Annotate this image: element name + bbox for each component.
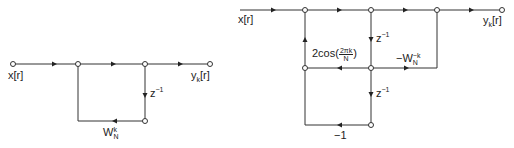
arrow-right-icon <box>469 8 474 13</box>
feedforward-gain-label: −W−kN <box>396 52 420 66</box>
arrow-right-icon <box>337 8 342 13</box>
cos-prefix: 2cos <box>312 47 335 59</box>
feedback-sum-node <box>303 66 308 71</box>
arrow-right-icon <box>271 8 276 13</box>
output-label: yk[r] <box>191 70 210 83</box>
delay-exp: −1 <box>156 86 164 93</box>
arrow-right-icon <box>111 62 116 67</box>
sum-node <box>303 8 308 13</box>
output-sum-node <box>435 8 440 13</box>
ff-sub: N <box>413 59 421 66</box>
delay2-node <box>369 123 374 128</box>
delay-node <box>143 119 148 124</box>
delay1-node <box>369 66 374 71</box>
arrow-left-icon <box>337 123 342 128</box>
output-label-tail: [r] <box>200 69 210 81</box>
input-label: x[r] <box>238 14 253 25</box>
ff-sup: −k <box>413 52 421 59</box>
delay1-label: z−1 <box>376 31 389 44</box>
arrow-right-icon <box>178 62 183 67</box>
arrow-down-icon <box>143 93 148 98</box>
cos-den: N <box>339 55 353 62</box>
gain-sub: N <box>113 133 118 140</box>
arrow-left-icon <box>337 66 342 71</box>
delay-exp: −1 <box>382 31 390 38</box>
right-flow-graph <box>240 8 505 128</box>
arrow-up-icon <box>303 37 308 42</box>
left-flow-graph <box>11 62 213 124</box>
branch-node <box>143 62 148 67</box>
output-node <box>208 62 213 67</box>
signal-flow-graphs <box>0 0 514 148</box>
cos-num: 2πk <box>339 47 353 55</box>
arrow-down-icon <box>369 37 374 42</box>
output-node <box>500 8 505 13</box>
feedback-gain-label: WkN <box>103 126 118 140</box>
state-node <box>369 8 374 13</box>
arrow-right-icon <box>52 62 57 67</box>
sum-node <box>76 62 81 67</box>
delay2-label: z−1 <box>376 86 389 99</box>
ff-prefix: −W <box>396 52 413 64</box>
arrow-down-icon <box>369 92 374 97</box>
input-node <box>11 62 16 67</box>
output-label-tail: [r] <box>492 14 502 26</box>
bottom-gain-label: −1 <box>334 130 347 141</box>
input-label: x[r] <box>8 70 23 81</box>
delay-exp: −1 <box>382 86 390 93</box>
cos-gain-label: 2cos(2πkN) <box>312 47 357 62</box>
gain-base: W <box>103 126 113 138</box>
output-label: yk[r] <box>483 15 502 28</box>
gain-sup: k <box>113 126 118 133</box>
arrow-right-icon <box>404 66 409 71</box>
arrow-right-icon <box>403 8 408 13</box>
delay-label: z−1 <box>150 86 163 99</box>
arrow-left-icon <box>112 119 117 124</box>
